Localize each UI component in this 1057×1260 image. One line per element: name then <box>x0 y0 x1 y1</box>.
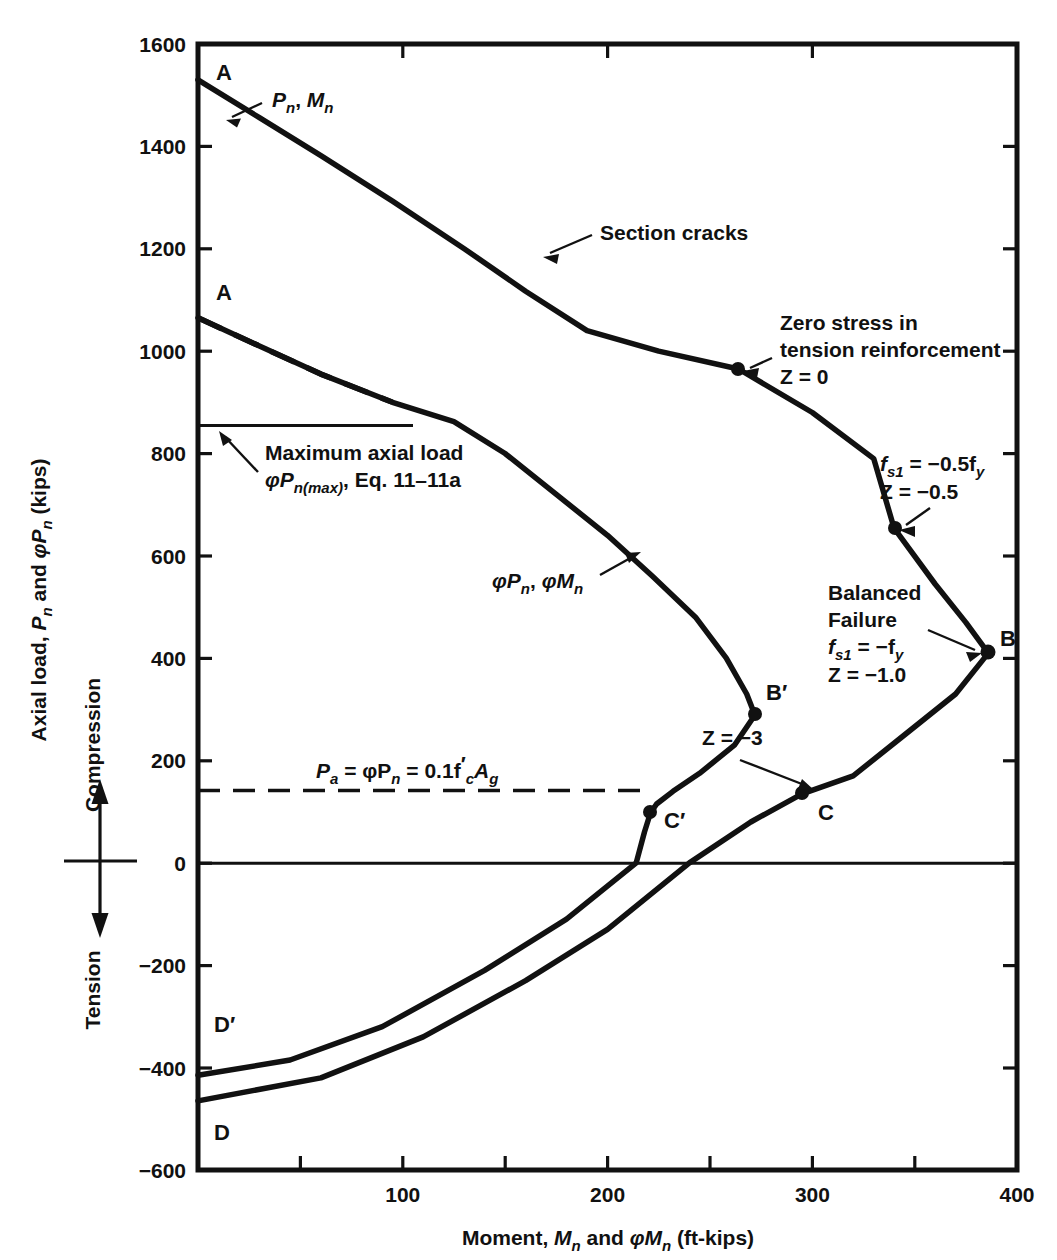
x-title-phi: φM <box>630 1226 663 1249</box>
y-title-phi: φP <box>27 529 50 559</box>
chart-svg: 1600 1400 1200 1000 800 600 400 200 0 −2… <box>0 0 1057 1260</box>
fs-half-line2: Z = −0.5 <box>880 480 959 503</box>
x-title-phi-sub: n <box>662 1237 671 1254</box>
point-zhalf-dot <box>888 521 902 535</box>
y-title-pn: P <box>27 616 50 631</box>
ytick-label: −600 <box>139 1159 186 1182</box>
z-minus3-label: Z = −3 <box>702 726 763 749</box>
x-title-mn-sub: n <box>572 1237 581 1254</box>
point-cprime-dot <box>643 805 657 819</box>
tension-label: Tension <box>81 951 104 1030</box>
ytick-label: 400 <box>151 647 186 670</box>
ytick-label: 1000 <box>139 340 186 363</box>
max-axial-line1: Maximum axial load <box>265 441 463 464</box>
x-title-main: Moment, <box>462 1226 554 1249</box>
point-z0-dot <box>731 362 745 376</box>
xtick-label: 100 <box>385 1183 420 1206</box>
y-title-and: and <box>27 558 50 607</box>
x-title-units: (ft-kips) <box>671 1226 754 1249</box>
point-bprime-dot <box>748 707 762 721</box>
y-title-main: Axial load, <box>27 631 50 742</box>
point-label-a-design: A <box>216 280 232 305</box>
ytick-label: 0 <box>174 852 186 875</box>
ytick-label: −200 <box>139 954 186 977</box>
point-label-b: B <box>1000 626 1016 651</box>
point-label-d: D <box>214 1120 230 1145</box>
balanced-line1: Balanced <box>828 581 921 604</box>
y-title-pn-sub: n <box>38 607 55 616</box>
ytick-label: −400 <box>139 1057 186 1080</box>
x-title-mn: M <box>554 1226 572 1249</box>
point-label-cprime: C′ <box>664 808 685 833</box>
point-label-bprime: B′ <box>766 680 787 705</box>
ytick-label: 1200 <box>139 237 186 260</box>
ytick-label: 1600 <box>139 33 186 56</box>
point-label-c: C <box>818 800 834 825</box>
ytick-label: 600 <box>151 545 186 568</box>
balanced-line4: Z = −1.0 <box>828 663 906 686</box>
zero-stress-line1: Zero stress in <box>780 311 918 334</box>
section-cracks-label: Section cracks <box>600 221 748 244</box>
xtick-label: 300 <box>795 1183 830 1206</box>
x-title-and: and <box>581 1226 630 1249</box>
point-label-a-nominal: A <box>216 60 232 85</box>
zero-stress-line2: tension reinforcement <box>780 338 1001 361</box>
ytick-label: 800 <box>151 442 186 465</box>
point-b-dot <box>981 645 996 660</box>
y-title-phi-sub: n <box>38 520 55 529</box>
ytick-label: 200 <box>151 749 186 772</box>
balanced-line2: Failure <box>828 608 897 631</box>
interaction-diagram-figure: 1600 1400 1200 1000 800 600 400 200 0 −2… <box>0 0 1057 1260</box>
xtick-label: 400 <box>999 1183 1034 1206</box>
y-title-units: (kips) <box>27 459 50 521</box>
point-label-dprime: D′ <box>214 1012 235 1037</box>
xtick-label: 200 <box>590 1183 625 1206</box>
ytick-label: 1400 <box>139 135 186 158</box>
zero-stress-line3: Z = 0 <box>780 365 828 388</box>
